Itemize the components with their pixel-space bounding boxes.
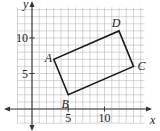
y-tick-label: 10 [16, 31, 28, 45]
vertex-label-c: C [138, 59, 147, 73]
rectangle-outline [54, 31, 134, 95]
vertex-label-b: B [62, 97, 70, 111]
x-axis-arrow-left-icon [4, 107, 10, 112]
x-tick-label: 10 [99, 111, 111, 125]
x-tick-label: 5 [65, 111, 71, 125]
labels: 510510xyABCD [16, 0, 156, 127]
grid-lines [18, 7, 145, 123]
x-axis-arrow-icon [146, 107, 152, 112]
coordinate-plane: 510510xyABCD [0, 0, 160, 131]
y-axis-label: y [22, 0, 29, 11]
y-axis-arrow-down-icon [30, 125, 35, 131]
y-axis-arrow-icon [30, 1, 35, 7]
x-axis-label: x [149, 113, 156, 127]
y-tick-label: 5 [22, 67, 28, 81]
vertex-label-d: D [111, 16, 121, 30]
rectangle-abcd [54, 31, 134, 95]
vertex-label-a: A [44, 51, 53, 65]
